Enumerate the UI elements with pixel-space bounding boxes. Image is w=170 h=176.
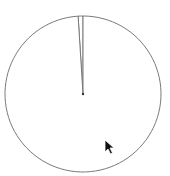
mouse-pointer-icon [104, 139, 116, 155]
pie-center-point [82, 93, 84, 95]
pie-chart [0, 0, 170, 176]
